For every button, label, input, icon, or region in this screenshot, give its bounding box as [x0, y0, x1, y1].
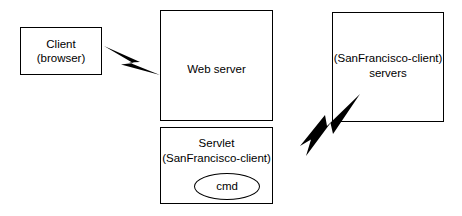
node-web-server[interactable]: Web server: [160, 10, 273, 121]
node-cmd-label: cmd: [216, 179, 238, 194]
lightning-bolt-icon-client-to-web-server: [104, 46, 160, 75]
node-client-label-line1: Client: [46, 37, 75, 52]
node-client[interactable]: Client (browser): [20, 27, 102, 75]
node-web-server-label: Web server: [187, 62, 246, 77]
node-cmd-ellipse[interactable]: cmd: [194, 173, 260, 200]
node-servlet-label-line2: (SanFrancisco-client): [162, 151, 271, 166]
node-sf-servers-label-line2: servers: [369, 66, 407, 81]
node-sf-servers-label-line1: (SanFrancisco-client): [334, 51, 443, 66]
node-client-label-line2: (browser): [37, 51, 86, 66]
node-servlet-label-line1: Servlet: [199, 136, 235, 151]
node-servlet[interactable]: Servlet (SanFrancisco-client) cmd: [160, 127, 273, 204]
node-sanfrancisco-client-servers[interactable]: (SanFrancisco-client) servers: [332, 12, 444, 122]
diagram-canvas: Client (browser) Web server Servlet (San…: [0, 0, 462, 216]
